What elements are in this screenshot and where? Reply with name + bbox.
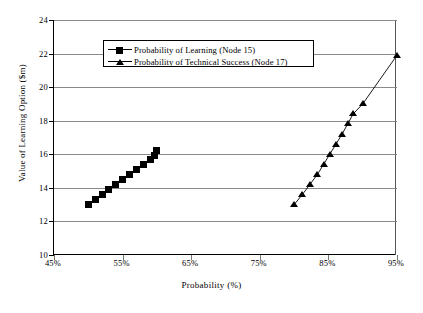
x-axis-tick-label: 55% [102, 259, 142, 268]
x-axis-tick-label: 95% [376, 259, 416, 268]
filled-square-marker-icon [108, 45, 132, 55]
filled-triangle-marker-icon [108, 57, 132, 67]
series-line-1 [294, 55, 397, 204]
y-axis-tick-label: 24 [22, 16, 48, 25]
x-axis-title: Probability (%) [0, 280, 423, 290]
legend-label-technical-success: Probability of Technical Success (Node 1… [134, 57, 288, 67]
series-line-0 [88, 151, 157, 205]
y-axis-tick-label: 12 [22, 217, 48, 226]
x-axis-tick-label: 75% [239, 259, 279, 268]
x-axis-tick-label: 65% [170, 259, 210, 268]
chart-container: 2422201816141210 Value of Learning Optio… [0, 0, 423, 313]
x-axis-tick-label: 85% [307, 259, 347, 268]
legend-label-learning: Probability of Learning (Node 15) [134, 45, 255, 55]
y-axis-title: Value of Learning Option ($m) [17, 33, 27, 213]
x-axis-tick-label: 45% [33, 259, 73, 268]
legend-item-learning: Probability of Learning (Node 15) [108, 44, 313, 55]
chart-legend: Probability of Learning (Node 15) Probab… [103, 40, 314, 67]
legend-item-technical-success: Probability of Technical Success (Node 1… [108, 56, 313, 67]
